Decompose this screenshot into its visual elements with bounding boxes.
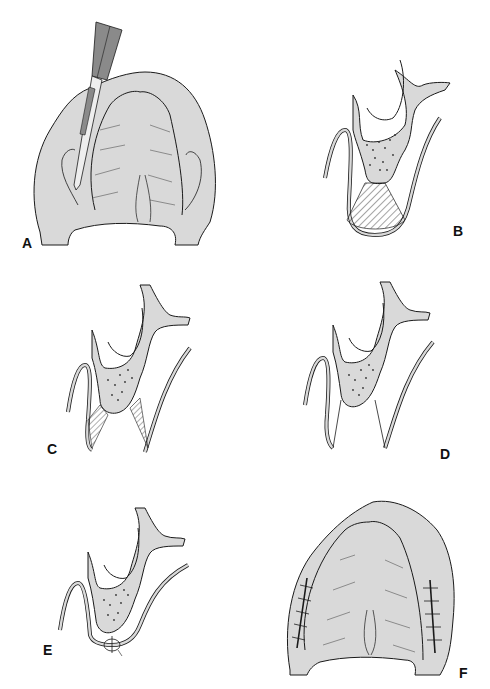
ridge-cross-section-b bbox=[245, 0, 490, 250]
palate-sutured-illustration bbox=[245, 470, 490, 689]
panel-b: B bbox=[245, 0, 490, 250]
panel-c: C bbox=[0, 270, 245, 470]
ridge-cross-section-c bbox=[0, 270, 245, 470]
panel-label-b: B bbox=[453, 224, 463, 238]
panel-f: F bbox=[245, 470, 490, 689]
ridge-cross-section-d bbox=[245, 270, 490, 470]
panel-label-e: E bbox=[43, 643, 52, 657]
ridge-cross-section-e bbox=[0, 470, 245, 689]
panel-label-f: F bbox=[459, 666, 468, 680]
panel-label-a: A bbox=[22, 236, 32, 250]
palate-incision-illustration bbox=[0, 0, 245, 250]
panel-d: D bbox=[245, 270, 490, 470]
panel-label-d: D bbox=[440, 447, 450, 461]
panel-label-c: C bbox=[47, 442, 57, 456]
panel-e: E bbox=[0, 470, 245, 689]
panel-a: A bbox=[0, 0, 245, 250]
